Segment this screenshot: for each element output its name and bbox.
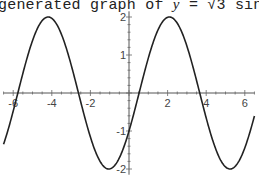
plot-area: -6-4-224621-1-2 <box>0 0 259 175</box>
x-tick-label: -2 <box>86 97 96 109</box>
y-tick-label: -2 <box>116 163 126 175</box>
y-tick-label: 2 <box>120 11 126 23</box>
y-tick-label: -1 <box>116 125 126 137</box>
x-tick-label: 2 <box>165 97 171 109</box>
y-tick-label: 1 <box>120 49 126 61</box>
x-tick-label: 6 <box>242 97 248 109</box>
x-tick-label: -4 <box>47 97 57 109</box>
